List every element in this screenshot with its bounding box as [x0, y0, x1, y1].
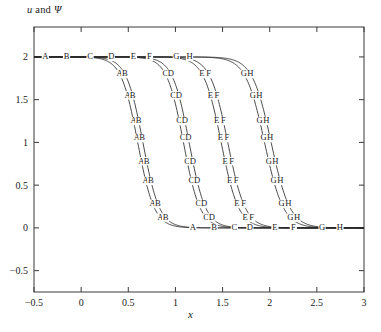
marker-ramp-F: F — [229, 156, 234, 166]
figure-root: u and Ψ −0.500.511.522.53−0.500.511.52AB… — [0, 0, 381, 332]
marker-bottom-D: D — [247, 222, 253, 232]
marker-ramp-G: G — [266, 156, 272, 166]
x-tick-label: 2.5 — [311, 297, 324, 308]
marker-ramp-H: H — [277, 175, 283, 185]
marker-ramp-G: G — [257, 115, 263, 125]
marker-ramp-B: B — [163, 212, 169, 222]
marker-ramp-E: E — [234, 198, 239, 208]
marker-ramp-B: B — [144, 156, 150, 166]
x-tick-label: −0.5 — [25, 297, 43, 308]
marker-bottom-H: H — [337, 222, 343, 232]
marker-ramp-G: G — [250, 90, 256, 100]
marker-ramp-E: E — [227, 175, 232, 185]
plot-canvas: −0.500.511.522.53−0.500.511.52ABCDEFGHAB… — [0, 0, 381, 332]
marker-top-D: D — [108, 51, 114, 61]
marker-ramp-D: D — [209, 212, 215, 222]
marker-ramp-H: H — [267, 132, 273, 142]
x-axis-label: x — [0, 308, 381, 320]
marker-ramp-G: G — [260, 132, 266, 142]
marker-ramp-E: E — [208, 90, 213, 100]
y-tick-label: 0 — [23, 222, 28, 233]
marker-top-B: B — [64, 51, 70, 61]
plot-frame — [34, 27, 364, 292]
y-tick-label: −0.5 — [10, 265, 28, 276]
marker-ramp-F: F — [221, 115, 226, 125]
marker-ramp-E: E — [199, 68, 204, 78]
marker-ramp-G: G — [287, 212, 293, 222]
marker-ramp-F: F — [224, 132, 229, 142]
marker-ramp-G: G — [279, 198, 285, 208]
marker-bottom-B: B — [211, 222, 217, 232]
x-tick-label: 0 — [79, 297, 84, 308]
marker-ramp-B: B — [139, 132, 145, 142]
marker-ramp-D: D — [176, 90, 182, 100]
marker-bottom-A: A — [190, 222, 197, 232]
marker-ramp-H: H — [272, 156, 278, 166]
marker-bottom-E: E — [272, 222, 277, 232]
marker-ramp-G: G — [271, 175, 277, 185]
marker-ramp-B: B — [155, 198, 161, 208]
marker-ramp-H: H — [294, 212, 300, 222]
marker-ramp-B: B — [122, 68, 128, 78]
marker-ramp-F: F — [206, 68, 211, 78]
y-tick-label: 2 — [23, 51, 28, 62]
x-tick-label: 2 — [267, 297, 272, 308]
marker-ramp-D: D — [185, 132, 191, 142]
marker-ramp-H: H — [285, 198, 291, 208]
marker-bottom-F: F — [291, 222, 296, 232]
marker-ramp-B: B — [130, 90, 136, 100]
marker-ramp-D: D — [168, 68, 174, 78]
marker-ramp-B: B — [136, 115, 142, 125]
marker-top-C: C — [87, 51, 93, 61]
marker-ramp-D: D — [201, 198, 207, 208]
marker-ramp-F: F — [234, 175, 239, 185]
marker-ramp-E: E — [214, 115, 219, 125]
marker-ramp-E: E — [218, 132, 223, 142]
marker-ramp-D: D — [190, 156, 196, 166]
marker-ramp-H: H — [256, 90, 262, 100]
marker-top-H: H — [186, 51, 192, 61]
y-tick-label: 1.5 — [16, 94, 29, 105]
marker-ramp-F: F — [249, 212, 254, 222]
marker-top-F: F — [147, 51, 152, 61]
marker-ramp-B: B — [148, 175, 154, 185]
marker-bottom-G: G — [319, 222, 325, 232]
marker-ramp-F: F — [215, 90, 220, 100]
x-tick-label: 1.5 — [216, 297, 229, 308]
x-tick-label: 1 — [173, 297, 178, 308]
marker-top-G: G — [173, 51, 179, 61]
marker-ramp-E: E — [222, 156, 227, 166]
marker-bottom-C: C — [231, 222, 237, 232]
y-tick-label: 0.5 — [16, 180, 29, 191]
marker-ramp-D: D — [194, 175, 200, 185]
marker-ramp-E: E — [243, 212, 248, 222]
marker-ramp-H: H — [247, 68, 253, 78]
marker-top-E: E — [131, 51, 136, 61]
x-tick-label: 3 — [362, 297, 367, 308]
marker-ramp-G: G — [241, 68, 247, 78]
marker-ramp-H: H — [263, 115, 269, 125]
marker-ramp-F: F — [241, 198, 246, 208]
x-tick-label: 0.5 — [122, 297, 135, 308]
marker-ramp-D: D — [182, 115, 188, 125]
marker-top-A: A — [42, 51, 49, 61]
y-tick-label: 1 — [23, 137, 28, 148]
